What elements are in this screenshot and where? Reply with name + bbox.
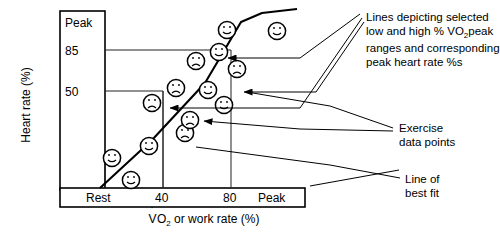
x-axis-title-vdot: V˙O2	[149, 212, 171, 226]
annotation-points-line1: Exercise	[399, 122, 455, 136]
annotation-ranges-line3: ranges and corresponding	[366, 42, 500, 56]
x-axis-title-rest: or work rate (%)	[171, 212, 260, 226]
data-point-face-sad	[228, 60, 245, 77]
annotation-ranges-line2: low and high % V˙O2peak	[366, 25, 500, 43]
annotation-ranges-line1: Lines depicting selected	[366, 11, 500, 25]
leader-line-ranges-upper	[228, 14, 360, 58]
leader-line-bestfit-long	[200, 150, 397, 192]
y-axis-box	[60, 11, 105, 190]
y-tick-50: 50	[65, 85, 78, 99]
annotation-ranges: Lines depicting selected low and high % …	[366, 11, 500, 70]
leader-line-points-lower	[204, 121, 393, 131]
data-point-face-happy	[122, 171, 139, 188]
y-tick-85: 85	[65, 44, 78, 58]
data-point-face-sad	[143, 94, 160, 111]
data-point-face-sad	[167, 79, 184, 96]
y-tick-peak: Peak	[65, 16, 92, 30]
annotation-exercise-data-points: Exercise data points	[399, 122, 455, 149]
annotation-bestfit-line1: Line of	[405, 173, 440, 187]
leader-line-points-upper	[247, 92, 393, 128]
annotation-points-line2: data points	[399, 136, 455, 150]
data-point-face-happy	[218, 21, 235, 38]
leader-line-bestfit	[196, 147, 400, 178]
x-tick-rest: Rest	[86, 191, 111, 205]
data-point-face-happy	[210, 43, 227, 60]
data-point-face-happy	[199, 81, 216, 98]
leader-line-peak-to-bestfit	[310, 170, 399, 186]
data-point-face-happy	[140, 137, 157, 154]
data-point-face-sad	[187, 52, 204, 69]
x-tick-peak: Peak	[258, 191, 285, 205]
data-point-face-sad	[181, 111, 198, 128]
data-point-face-happy	[268, 22, 285, 39]
line-of-best-fit	[100, 9, 297, 188]
x-tick-40: 40	[155, 191, 168, 205]
data-point-face-happy	[215, 96, 232, 113]
vdot-glyph: V˙O2	[447, 25, 468, 37]
leader-line-ranges-mid	[244, 22, 364, 92]
data-point-face-happy	[103, 149, 120, 166]
annotation-ranges-line4: peak heart rate %s	[366, 56, 500, 70]
y-axis-title: Heart rate (%)	[19, 50, 33, 160]
x-axis-title: V˙O2 or work rate (%)	[84, 211, 324, 228]
annotation-bestfit-line2: best fit	[405, 187, 440, 201]
data-point-faces	[103, 21, 285, 188]
annotation-line-of-best-fit: Line of best fit	[405, 173, 440, 200]
x-tick-80: 80	[223, 191, 236, 205]
